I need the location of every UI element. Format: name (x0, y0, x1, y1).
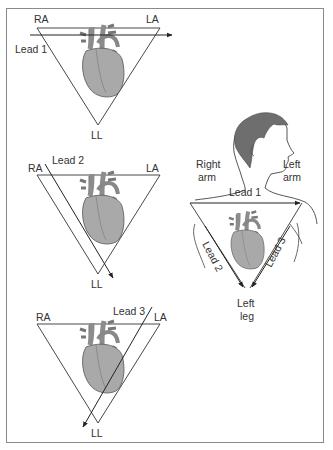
heart-illustration (80, 25, 124, 97)
corner-label-ll: LL (91, 129, 103, 141)
corner-label-ll: LL (91, 278, 103, 290)
lead2-label: Lead 2 (200, 239, 226, 273)
heart-illustration (229, 211, 264, 269)
lead3-panel: RA LA LL Lead 3 (36, 305, 167, 439)
right-arm-label: arm (198, 171, 216, 183)
lead3-label: Lead 3 (262, 235, 288, 269)
left-leg-label: leg (240, 310, 254, 322)
corner-label-ra: RA (34, 13, 49, 25)
left-leg-label: Left (237, 297, 255, 309)
lead1-label: Lead 1 (229, 186, 261, 198)
lead1-panel: RA LA LL Lead 1 (15, 13, 172, 141)
right-arm-label: Right (196, 158, 221, 170)
heart-illustration (80, 321, 124, 393)
lead-label: Lead 2 (52, 154, 84, 166)
corner-label-ll: LL (91, 427, 103, 439)
lead-label: Lead 1 (15, 43, 47, 55)
corner-label-ra: RA (36, 311, 51, 323)
corner-label-ra: RA (28, 162, 43, 174)
left-arm-label: arm (283, 171, 301, 183)
body-figure: Right arm Left arm Lead 1 Lead 2 Lead 3 … (190, 113, 317, 322)
corner-label-la: LA (146, 13, 159, 25)
lead-label: Lead 3 (113, 305, 145, 317)
left-arm-label: Left (283, 158, 301, 170)
lead2-panel: RA LA LL Lead 2 (28, 154, 160, 290)
einthoven-diagram: RA LA LL Lead 1 RA LA LL Lead 2 RA LA LL… (0, 0, 333, 450)
corner-label-la: LA (146, 162, 159, 174)
corner-label-la: LA (154, 311, 167, 323)
